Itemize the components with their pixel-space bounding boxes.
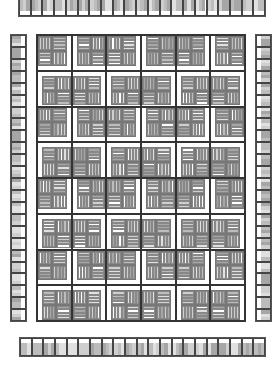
border-segment — [11, 297, 26, 309]
block-quadrant — [211, 162, 225, 177]
block-quadrant — [87, 91, 101, 106]
block-quadrant — [126, 234, 140, 249]
border-segment — [256, 166, 271, 178]
block-quadrant — [215, 251, 229, 266]
block-quadrant — [73, 91, 87, 106]
border-segment — [67, 338, 79, 356]
border-segment — [136, 0, 148, 16]
block-quadrant — [126, 219, 140, 234]
border-segment — [42, 0, 54, 16]
border-segment — [160, 0, 172, 16]
quilt-block — [141, 178, 176, 214]
border-segment — [124, 0, 136, 16]
quilt-block — [210, 35, 245, 71]
block-quadrant — [191, 108, 205, 123]
block-quadrant — [111, 91, 125, 106]
block-quadrant — [160, 179, 174, 194]
block-quadrant — [191, 36, 205, 51]
block-quadrant — [107, 108, 121, 123]
border-segment — [31, 0, 43, 16]
block-quadrant — [160, 251, 174, 266]
block-quadrant — [38, 251, 52, 266]
border-segment — [256, 130, 271, 142]
border-segment — [256, 262, 271, 274]
block-quadrant — [122, 108, 136, 123]
block-quadrant — [91, 108, 105, 123]
block-quadrant — [195, 91, 209, 106]
block-quadrant — [52, 179, 66, 194]
block-quadrant — [42, 76, 56, 91]
block-quadrant — [177, 265, 191, 280]
block-quadrant — [226, 290, 240, 305]
block-quadrant — [230, 51, 244, 66]
quilt-block — [176, 35, 211, 71]
quilt-block — [141, 250, 176, 286]
block-quadrant — [111, 290, 125, 305]
border-segment — [78, 0, 90, 16]
block-quadrant — [87, 305, 101, 320]
border-segment — [242, 338, 254, 356]
border-segment — [256, 71, 271, 83]
block-quadrant — [177, 251, 191, 266]
border-segment — [256, 47, 271, 59]
block-quadrant — [91, 179, 105, 194]
border-segment — [256, 309, 271, 321]
border-segment — [256, 83, 271, 95]
block-quadrant — [107, 194, 121, 209]
border-segment — [54, 0, 66, 16]
border-segment — [11, 59, 26, 71]
block-quadrant — [195, 147, 209, 162]
border-segment — [11, 250, 26, 262]
block-quadrant — [107, 122, 121, 137]
border-segment — [256, 35, 271, 47]
block-quadrant — [52, 36, 66, 51]
block-quadrant — [181, 290, 195, 305]
block-quadrant — [42, 305, 56, 320]
block-quadrant — [87, 76, 101, 91]
border-segment — [101, 0, 113, 16]
block-quadrant — [142, 147, 156, 162]
block-quadrant — [156, 234, 170, 249]
border-segment — [19, 0, 31, 16]
block-quadrant — [230, 122, 244, 137]
border-segment — [11, 285, 26, 297]
block-quadrant — [126, 162, 140, 177]
border-segment — [195, 0, 207, 16]
block-quadrant — [77, 51, 91, 66]
quilt-block — [210, 71, 245, 107]
block-quadrant — [42, 91, 56, 106]
block-quadrant — [181, 305, 195, 320]
border-segment — [256, 297, 271, 309]
block-quadrant — [56, 234, 70, 249]
block-quadrant — [111, 147, 125, 162]
quilt-block — [210, 178, 245, 214]
block-quadrant — [177, 122, 191, 137]
block-quadrant — [42, 147, 56, 162]
block-quadrant — [191, 194, 205, 209]
block-quadrant — [42, 234, 56, 249]
block-quadrant — [73, 219, 87, 234]
block-quadrant — [73, 76, 87, 91]
block-quadrant — [191, 122, 205, 137]
block-quadrant — [38, 108, 52, 123]
border-segment — [137, 338, 149, 356]
block-quadrant — [126, 91, 140, 106]
block-quadrant — [156, 219, 170, 234]
block-quadrant — [195, 76, 209, 91]
border-segment — [256, 238, 271, 250]
block-quadrant — [107, 265, 121, 280]
border-segment — [89, 0, 101, 16]
block-quadrant — [177, 36, 191, 51]
block-quadrant — [230, 265, 244, 280]
quilt-block — [176, 214, 211, 250]
block-quadrant — [87, 162, 101, 177]
border-segment — [55, 338, 67, 356]
block-quadrant — [38, 36, 52, 51]
block-quadrant — [77, 265, 91, 280]
block-quadrant — [146, 36, 160, 51]
block-quadrant — [146, 51, 160, 66]
block-quadrant — [52, 265, 66, 280]
quilt-block — [72, 250, 107, 286]
block-quadrant — [111, 162, 125, 177]
block-quadrant — [156, 76, 170, 91]
